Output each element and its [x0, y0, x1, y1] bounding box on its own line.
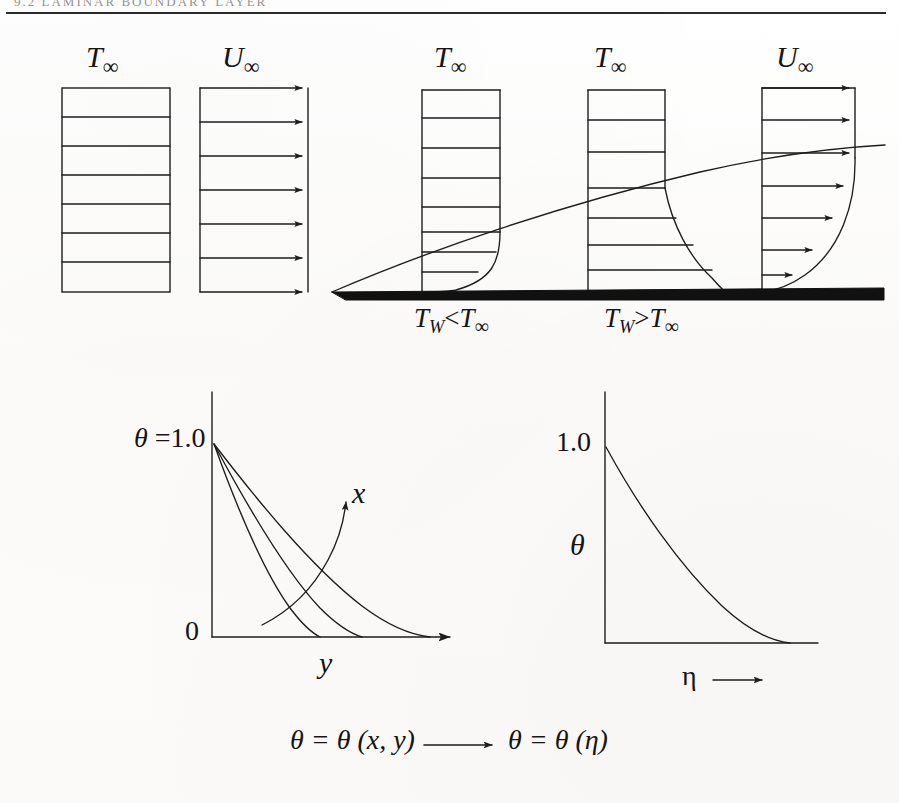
label-heated-profile-top: T∞: [594, 42, 627, 78]
lower-left-x-axis-label: y: [319, 648, 332, 678]
lower-left-y-tick-label: θ =1.0: [134, 424, 206, 452]
flat-plate: [332, 288, 884, 300]
label-freestream-velocity: U∞: [222, 42, 260, 78]
lower-left-x-annotation-label: x: [352, 478, 365, 508]
freestream-velocity-profile: [200, 88, 308, 292]
equation-right-side: θ = θ (η): [508, 726, 608, 754]
cooled-wall-temperature-profile: [422, 90, 500, 292]
boundary-layer-figure: [0, 0, 899, 803]
lower-right-x-axis-label: η: [682, 662, 697, 690]
lower-left-plot: [212, 392, 450, 637]
equation-left-side: θ = θ (x, y): [290, 726, 415, 754]
lower-left-origin-label: 0: [185, 617, 199, 645]
label-heated-wall-condition: TW>T∞: [604, 305, 679, 336]
label-cooled-wall-condition: TW<T∞: [414, 305, 489, 336]
heated-wall-temperature-profile: [588, 90, 725, 292]
lower-right-y-tick-label: 1.0: [556, 428, 591, 456]
label-cooled-profile-top: T∞: [434, 42, 467, 78]
freestream-temperature-profile: [62, 88, 170, 292]
figure-page: 9.2 LAMINAR BOUNDARY LAYER: [0, 0, 899, 803]
label-freestream-temperature: T∞: [86, 42, 119, 78]
velocity-boundary-layer-profile: [762, 88, 855, 292]
lower-right-y-axis-label: θ: [570, 530, 585, 560]
label-velocity-profile-top: U∞: [776, 42, 814, 78]
lower-right-plot: [605, 392, 818, 643]
